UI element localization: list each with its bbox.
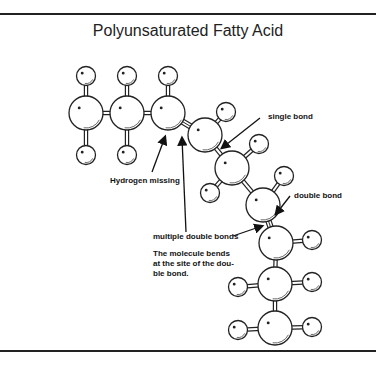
carbon-atom bbox=[110, 96, 144, 130]
multiple-double-bonds-arrow bbox=[182, 138, 186, 232]
hydrogen-atom bbox=[77, 146, 96, 165]
bottom-rule bbox=[0, 350, 376, 352]
label-double-bond: double bond bbox=[294, 191, 342, 201]
molecule-diagram bbox=[0, 0, 376, 368]
carbon-atom bbox=[259, 226, 293, 260]
carbon-atom bbox=[258, 267, 292, 301]
hydrogen-atom bbox=[201, 184, 220, 203]
hydrogen-atom bbox=[217, 103, 236, 122]
carbon-atom bbox=[258, 311, 292, 345]
hydrogen-atom bbox=[118, 67, 137, 86]
note-line-2: at the site of the dou- bbox=[153, 259, 234, 269]
hydrogen-missing-arrow bbox=[152, 137, 165, 172]
hydrogen-atom bbox=[303, 231, 322, 250]
hydrogen-atom bbox=[159, 67, 178, 86]
note-line-3: ble bond. bbox=[153, 269, 234, 279]
note-text: The molecule bends at the site of the do… bbox=[153, 249, 234, 279]
carbon-atom bbox=[69, 96, 103, 130]
carbon-atom bbox=[215, 151, 249, 185]
label-single-bond: single bond bbox=[268, 112, 313, 122]
hydrogen-atom bbox=[229, 321, 248, 340]
hydrogen-atom bbox=[303, 273, 322, 292]
carbon-atom bbox=[151, 96, 185, 130]
hydrogen-atom bbox=[275, 167, 294, 186]
label-hydrogen-missing: Hydrogen missing bbox=[110, 176, 180, 186]
carbon-atom bbox=[246, 188, 280, 222]
label-multiple-double-bonds: multiple double bonds bbox=[153, 232, 238, 242]
hydrogen-atom bbox=[303, 318, 322, 337]
hydrogen-atom bbox=[250, 135, 269, 154]
note-line-1: The molecule bends bbox=[153, 249, 234, 259]
carbon-atom bbox=[188, 118, 222, 152]
hydrogen-atom bbox=[118, 146, 137, 165]
hydrogen-atom bbox=[229, 278, 248, 297]
hydrogen-atom bbox=[77, 67, 96, 86]
